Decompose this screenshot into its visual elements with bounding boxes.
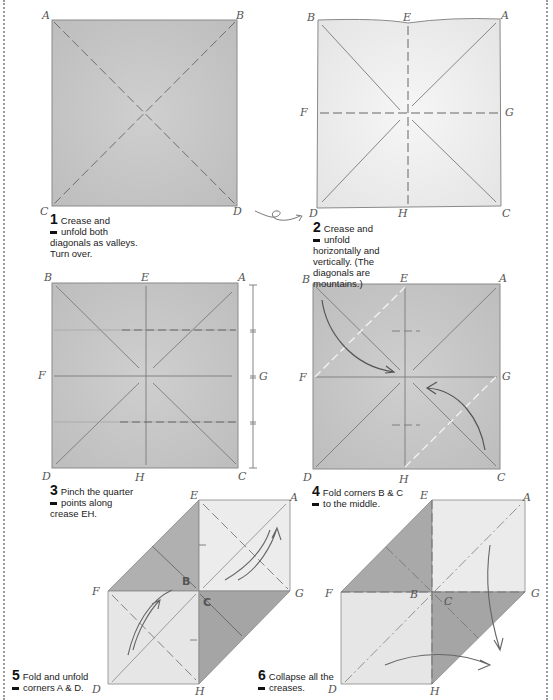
step-marker-icon (258, 687, 265, 690)
step3-label-g: G (259, 371, 268, 382)
step5-caption: 5Fold and unfold corners A & D. (12, 670, 88, 693)
step6-label-a: A (523, 492, 531, 503)
step2-label-g: G (505, 107, 514, 118)
step6-model (341, 500, 525, 684)
step5-label-c: C (203, 597, 211, 608)
step1-corner-label-a: A (42, 10, 50, 21)
step1-corner-label-d: D (233, 206, 242, 217)
step2-label-e: E (403, 12, 411, 23)
step-number: 3 (50, 482, 58, 498)
step5-label-f: F (92, 586, 100, 597)
step6-label-b: B (410, 589, 418, 600)
step4-label-b: B (302, 274, 310, 285)
step-marker-icon (313, 239, 320, 242)
step5-label-e: E (190, 490, 198, 501)
step3-label-a: A (238, 272, 246, 283)
step6-label-g: G (531, 588, 540, 599)
step-number: 4 (312, 483, 320, 499)
step3-caption: 3Pinch the quarter points along crease E… (50, 485, 133, 519)
turn-over-arrow-icon (255, 211, 302, 221)
step-number: 6 (258, 667, 266, 683)
step3-label-c: C (238, 471, 246, 482)
step2-label-h: H (398, 208, 408, 219)
origami-diagrams (0, 0, 553, 700)
step3-square (52, 283, 257, 468)
step3-label-b: B (44, 272, 52, 283)
step6-label-h: H (430, 686, 440, 697)
step6-caption: 6Collapse all the creases. (258, 670, 334, 693)
step4-label-e: E (400, 273, 408, 284)
step-marker-icon (12, 687, 19, 690)
step4-caption: 4Fold corners B & C to the middle. (312, 486, 403, 509)
step4-label-g: G (502, 371, 511, 382)
step5-label-d: D (92, 684, 101, 695)
step4-square (313, 284, 500, 469)
step-number: 1 (50, 211, 58, 227)
step-marker-icon (312, 503, 319, 506)
step3-label-e: E (141, 272, 149, 283)
step5-label-g: G (295, 588, 304, 599)
step2-label-b: B (307, 12, 315, 23)
step4-label-d: D (303, 472, 312, 483)
step-number: 2 (313, 219, 321, 235)
step4-label-f: F (299, 372, 307, 383)
step-marker-icon (50, 231, 57, 234)
step5-label-b: B (182, 576, 190, 587)
step6-label-c: C (444, 596, 452, 607)
step2-label-d: D (309, 208, 318, 219)
step2-caption: 2Crease and unfold horizontally and vert… (313, 222, 380, 289)
step4-label-c: C (497, 472, 505, 483)
step5-model (108, 500, 290, 684)
step6-label-e: E (420, 490, 428, 501)
step-number: 5 (12, 667, 20, 683)
step3-label-f: F (38, 370, 46, 381)
step4-label-a: A (499, 273, 507, 284)
step1-corner-label-b: B (236, 10, 244, 21)
quarter-measure-bracket (249, 285, 257, 468)
step5-label-a: A (290, 492, 298, 503)
step1-caption: 1Crease and unfold both diagonals as val… (50, 214, 138, 259)
step2-label-a: A (501, 10, 509, 21)
step6-label-f: F (325, 588, 333, 599)
step5-label-h: H (195, 686, 205, 697)
step3-label-h: H (135, 472, 145, 483)
step2-square (317, 19, 501, 209)
step-marker-icon (50, 502, 57, 505)
step2-label-c: C (502, 208, 510, 219)
step2-label-f: F (300, 107, 308, 118)
step1-corner-label-c: C (40, 206, 48, 217)
step4-label-h: H (399, 474, 409, 485)
step3-label-d: D (42, 471, 51, 482)
step1-square (52, 20, 237, 206)
